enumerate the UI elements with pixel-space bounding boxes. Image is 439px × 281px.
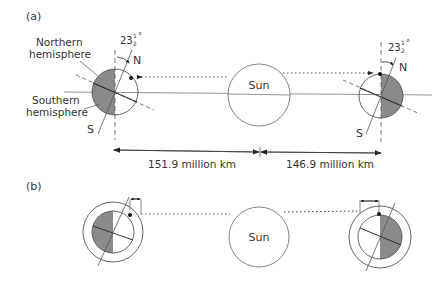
north-label-left: N xyxy=(133,54,141,67)
location-dot xyxy=(129,76,133,80)
southern-hemisphere-label-1: Southern xyxy=(32,94,80,106)
earth-left-b xyxy=(83,197,143,266)
tilt-angle-right: 23 xyxy=(388,42,401,53)
northern-hemisphere-label-1: Northern xyxy=(36,36,83,48)
sun-a xyxy=(228,64,290,126)
earth-right-b xyxy=(349,200,411,271)
location-dot xyxy=(378,72,382,76)
earth-orbit-diagram: (a) 23 1 2 ° N S Northern hemisphere Sou… xyxy=(0,0,439,281)
south-label-right: S xyxy=(356,127,363,140)
tilt-frac-num-left: 1 xyxy=(133,32,137,39)
tilt-angle-left: 23 xyxy=(120,35,133,46)
location-dot xyxy=(377,212,381,216)
panel-b-label: (b) xyxy=(26,180,42,193)
southern-hemisphere-label-2: hemisphere xyxy=(26,106,88,118)
distance-label-left: 151.9 million km xyxy=(148,158,236,170)
sun-label-a: Sun xyxy=(249,79,270,92)
sunlight-ray-right-b xyxy=(284,211,359,212)
south-label-left: S xyxy=(87,123,94,136)
degree-right: ° xyxy=(406,39,410,48)
panel-a-label: (a) xyxy=(26,10,41,23)
earth-right-a xyxy=(343,42,420,142)
tilt-frac-den-right: 2 xyxy=(401,47,405,54)
distance-label-right: 146.9 million km xyxy=(286,158,374,170)
location-dot xyxy=(128,213,132,217)
tilt-arc xyxy=(382,62,393,65)
tilt-frac-den-left: 2 xyxy=(133,40,137,47)
tilt-frac-num-right: 1 xyxy=(401,39,405,46)
northern-hemisphere-label-2: hemisphere xyxy=(29,48,91,60)
degree-left: ° xyxy=(138,32,142,41)
north-label-right: N xyxy=(399,61,407,74)
sun-label-b: Sun xyxy=(249,231,270,244)
